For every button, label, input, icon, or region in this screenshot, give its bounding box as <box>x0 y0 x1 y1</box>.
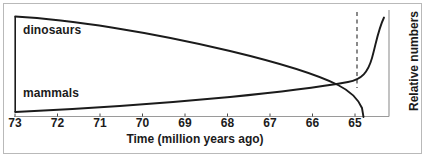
x-tick-labels: 73 72 71 70 69 68 67 66 65 <box>0 116 390 132</box>
x-tick-label-66: 66 <box>306 116 319 130</box>
chart-figure: dinosaurs mammals 73 72 71 70 69 68 67 6… <box>0 0 425 157</box>
x-tick-label-65: 65 <box>348 116 361 130</box>
x-tick-label-70: 70 <box>136 116 149 130</box>
x-tick-label-69: 69 <box>178 116 191 130</box>
x-axis-title: Time (million years ago) <box>0 132 390 146</box>
series-label-dinosaurs: dinosaurs <box>23 23 81 37</box>
series-label-mammals: mammals <box>23 86 79 100</box>
y-axis-title-text: Relative numbers <box>407 11 421 111</box>
x-tick-label-72: 72 <box>51 116 64 130</box>
x-tick-label-67: 67 <box>263 116 276 130</box>
y-axis-title: Relative numbers <box>405 0 423 122</box>
x-tick-label-71: 71 <box>93 116 106 130</box>
x-tick-label-68: 68 <box>221 116 234 130</box>
x-tick-label-73: 73 <box>8 116 21 130</box>
